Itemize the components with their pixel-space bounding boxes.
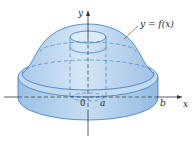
- y-axis-label: y: [77, 8, 84, 18]
- solid-of-revolution-diagram: y x 0 a b y = f(x): [0, 0, 192, 146]
- curve-leader-line: [124, 26, 138, 39]
- outer-radius-label: b: [160, 98, 166, 108]
- curve-label: y = f(x): [139, 19, 174, 29]
- y-axis-arrow-icon: [86, 10, 90, 16]
- x-axis-arrow-icon: [177, 95, 182, 99]
- x-axis-label: x: [183, 99, 188, 109]
- origin-label: 0: [80, 98, 85, 108]
- inner-radius-label: a: [100, 98, 105, 108]
